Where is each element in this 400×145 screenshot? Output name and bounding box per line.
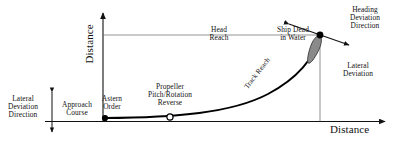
lateral-deviation-direction-label: Lateral Deviation Direction	[0, 95, 46, 119]
head-reach-label: Head Reach	[198, 26, 240, 42]
diagram-canvas: Distance Distance Lateral Deviation Dire…	[0, 0, 400, 145]
astern-order-label: Astern Order	[92, 95, 132, 111]
lateral-deviation-label: Lateral Deviation	[330, 62, 386, 78]
y-axis-title: Distance	[84, 14, 96, 74]
x-axis-title: Distance	[330, 124, 396, 136]
propeller-reverse-label: Propeller Pitch/Rotation Reverse	[132, 83, 208, 107]
propeller-reverse-marker	[167, 114, 173, 120]
astern-order-marker	[102, 115, 108, 121]
ship-dead-in-water-label: Ship Dead in Water	[265, 26, 321, 42]
heading-deviation-direction-label: Heading Deviation Direction	[336, 6, 394, 30]
